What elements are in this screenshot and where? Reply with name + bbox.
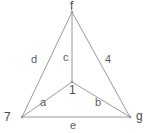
vertex-dot-bottom-right	[129, 116, 131, 118]
vertex-label-bottom-right: g	[136, 110, 143, 122]
graph-canvas	[0, 0, 150, 133]
vertex-layer	[21, 11, 131, 118]
graph-diagram: f 7 g 1 d 4 e c a b	[0, 0, 150, 133]
vertex-label-center: 1	[69, 84, 76, 96]
vertex-label-bottom-left: 7	[4, 111, 11, 123]
vertex-label-apex: f	[70, 0, 73, 12]
edge-layer	[22, 12, 130, 117]
edge-label-e: e	[70, 120, 76, 131]
edge-label-c: c	[63, 52, 69, 63]
edge-a-line	[22, 82, 72, 117]
edge-label-b: b	[95, 97, 101, 108]
vertex-dot-bottom-left	[21, 116, 23, 118]
edge-label-4: 4	[105, 54, 111, 65]
edge-d-line	[22, 12, 72, 117]
edge-label-d: d	[31, 54, 37, 65]
edge-label-a: a	[40, 97, 46, 108]
